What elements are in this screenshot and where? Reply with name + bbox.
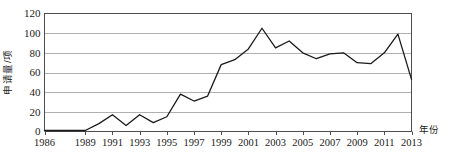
x-axis-tick-label: 1986 (34, 137, 55, 148)
x-axis-tick-label: 1989 (75, 137, 96, 148)
y-axis-tick-label: 20 (30, 106, 42, 118)
line-chart: 020406080100120 198619891991199319951997… (0, 0, 449, 166)
y-axis-tick-label: 60 (30, 66, 42, 78)
x-axis-tick-label: 1999 (211, 137, 232, 148)
x-axis-title: 年份 (419, 124, 439, 135)
y-axis-tick-label: 120 (24, 7, 41, 19)
x-axis-tick-label: 1997 (184, 137, 205, 148)
x-axis-tick-label: 1993 (129, 137, 150, 148)
x-axis-tick-labels: 1986198919911993199519971999200120032005… (34, 137, 422, 148)
x-axis-tick-label: 2011 (374, 137, 395, 148)
y-axis-tick-label: 0 (35, 125, 41, 137)
x-axis-tick-label: 2001 (238, 137, 259, 148)
x-axis-tick-label: 2013 (401, 137, 422, 148)
x-axis-tick-label: 1995 (156, 137, 177, 148)
y-axis-tick-label: 80 (30, 47, 42, 59)
x-axis-tick-label: 2003 (265, 137, 286, 148)
x-axis-tick-label: 2005 (292, 137, 313, 148)
chart-container: 020406080100120 198619891991199319951997… (0, 0, 449, 166)
x-axis-tick-label: 1991 (102, 137, 123, 148)
y-axis-tick-label: 100 (24, 27, 41, 39)
y-axis-tick-label: 40 (30, 86, 42, 98)
x-axis-tick-label: 2009 (347, 137, 368, 148)
x-axis-tick-label: 2007 (319, 137, 340, 148)
y-axis-title: 申请量/项 (2, 49, 13, 94)
